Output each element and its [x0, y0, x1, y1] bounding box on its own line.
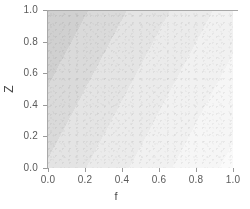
y-tick-label-5: 1.0 — [0, 4, 38, 15]
x-tick-2 — [122, 168, 123, 172]
contour-field — [48, 10, 233, 168]
axis-spine-top — [48, 10, 238, 11]
x-tick-5 — [233, 168, 234, 172]
y-tick-label-1: 0.2 — [0, 130, 38, 141]
y-tick-0 — [43, 168, 47, 169]
y-tick-1 — [43, 136, 47, 137]
x-tick-0 — [48, 168, 49, 172]
axis-spine-left — [47, 10, 48, 169]
y-tick-5 — [43, 10, 47, 11]
x-axis-label: f — [0, 190, 250, 202]
y-tick-label-4: 0.8 — [0, 36, 38, 47]
x-tick-3 — [159, 168, 160, 172]
x-tick-label-0: 0.0 — [28, 174, 68, 185]
y-axis-label: Z — [2, 69, 16, 109]
y-tick-3 — [43, 73, 47, 74]
x-tick-label-2: 0.4 — [102, 174, 142, 185]
x-axis-label-text: f — [114, 190, 117, 202]
plot-area — [48, 10, 233, 168]
x-tick-label-3: 0.6 — [139, 174, 179, 185]
x-tick-label-5: 1.0 — [213, 174, 250, 185]
x-tick-1 — [85, 168, 86, 172]
x-tick-label-4: 0.8 — [176, 174, 216, 185]
y-tick-4 — [43, 42, 47, 43]
x-tick-label-1: 0.2 — [65, 174, 105, 185]
y-tick-label-0: 0.0 — [0, 162, 38, 173]
x-tick-4 — [196, 168, 197, 172]
y-tick-2 — [43, 105, 47, 106]
contour-band-gradient — [48, 10, 233, 168]
figure-canvas: 0.00.20.40.60.81.0 0.00.20.40.60.81.0 f … — [0, 0, 250, 209]
